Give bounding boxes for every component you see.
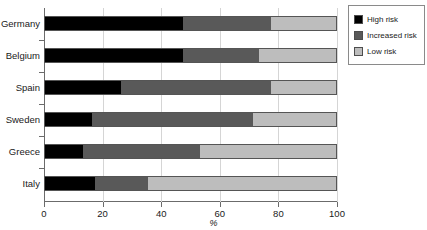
gridline xyxy=(278,8,279,202)
bar-segment xyxy=(92,113,253,126)
legend-box: High risk Increased risk Low risk xyxy=(348,5,425,65)
plot-area xyxy=(44,8,337,202)
y-axis-tick xyxy=(39,168,44,169)
bar-segment xyxy=(45,81,121,94)
bar-row xyxy=(44,48,337,63)
category-label: Germany xyxy=(0,16,40,31)
legend-swatch-high-risk xyxy=(354,15,363,24)
stacked-bar xyxy=(44,144,337,159)
x-axis-tick xyxy=(44,202,45,207)
bar-segment xyxy=(200,145,337,158)
x-axis-tick xyxy=(103,202,104,207)
y-axis-tick xyxy=(39,136,44,137)
bar-segment xyxy=(45,113,92,126)
category-label: Greece xyxy=(0,144,40,159)
bar-segment xyxy=(271,17,337,30)
bar-row xyxy=(44,16,337,31)
stacked-bar-chart: GermanyBelgiumSpainSwedenGreeceItaly 020… xyxy=(0,0,427,230)
x-axis-tick xyxy=(161,202,162,207)
x-axis-tick xyxy=(220,202,221,207)
legend-item: Low risk xyxy=(354,43,420,59)
bar-row xyxy=(44,80,337,95)
y-axis-tick xyxy=(39,104,44,105)
bar-segment xyxy=(45,17,183,30)
bar-segment xyxy=(45,49,183,62)
bar-segment xyxy=(83,145,200,158)
bar-row xyxy=(44,144,337,159)
legend-item: High risk xyxy=(354,11,420,27)
stacked-bar xyxy=(44,80,337,95)
stacked-bar xyxy=(44,48,337,63)
category-label: Spain xyxy=(0,80,40,95)
gridline xyxy=(103,8,104,202)
bar-segment xyxy=(45,177,95,190)
legend-swatch-increased-risk xyxy=(354,31,363,40)
category-label-wrap: Belgium xyxy=(0,48,40,63)
legend-item: Increased risk xyxy=(354,27,420,43)
axis-frame xyxy=(44,8,337,202)
category-label: Italy xyxy=(0,176,40,191)
gridline xyxy=(337,8,338,202)
bar-segment xyxy=(259,49,337,62)
stacked-bar xyxy=(44,112,337,127)
category-label: Belgium xyxy=(0,48,40,63)
bar-segment xyxy=(183,49,259,62)
x-axis-tick xyxy=(278,202,279,207)
x-axis-tick xyxy=(337,202,338,207)
y-axis-tick xyxy=(39,72,44,73)
bar-segment xyxy=(253,113,337,126)
category-label: Sweden xyxy=(0,112,40,127)
y-axis-tick xyxy=(39,40,44,41)
bar-segment xyxy=(183,17,271,30)
legend-swatch-low-risk xyxy=(354,47,363,56)
legend-label-increased-risk: Increased risk xyxy=(367,31,417,40)
category-label-wrap: Spain xyxy=(0,80,40,95)
bar-segment xyxy=(148,177,337,190)
bar-segment xyxy=(271,81,337,94)
legend-label-low-risk: Low risk xyxy=(367,47,396,56)
legend-label-high-risk: High risk xyxy=(367,15,398,24)
category-label-wrap: Greece xyxy=(0,144,40,159)
category-label-wrap: Germany xyxy=(0,16,40,31)
bar-segment xyxy=(95,177,148,190)
bar-segment xyxy=(45,145,83,158)
gridline xyxy=(220,8,221,202)
gridline xyxy=(161,8,162,202)
category-label-wrap: Sweden xyxy=(0,112,40,127)
bar-row xyxy=(44,176,337,191)
bar-row xyxy=(44,112,337,127)
x-axis-title: % xyxy=(0,218,427,228)
category-label-wrap: Italy xyxy=(0,176,40,191)
bar-segment xyxy=(121,81,270,94)
stacked-bar xyxy=(44,16,337,31)
stacked-bar xyxy=(44,176,337,191)
